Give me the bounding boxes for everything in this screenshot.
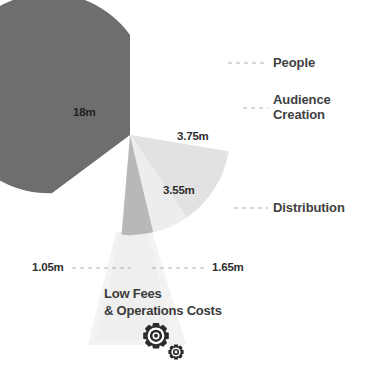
pie-slices: [0, 0, 229, 235]
slice-value-audience-creation: 3.75m: [177, 130, 209, 144]
slice-people[interactable]: [0, 0, 130, 193]
gear-small-icon: [168, 344, 183, 359]
callout-label-audience-creation-line1: Audience: [273, 93, 331, 108]
caption-low-fees-line1: Low Fees: [104, 286, 162, 301]
callout-label-audience-creation[interactable]: Audience Creation: [273, 93, 331, 122]
callout-label-distribution[interactable]: Distribution: [273, 200, 345, 215]
edge-value-ops-left: 1.05m: [32, 261, 64, 275]
edge-value-ops-right: 1.65m: [212, 261, 244, 275]
slice-value-distribution: 3.55m: [163, 184, 195, 198]
callout-label-people[interactable]: People: [273, 55, 315, 70]
pie-chart-figure: 18m 3.75m 3.55m 1.05m 1.65m People Audie…: [0, 0, 365, 373]
caption-low-fees-line2: & Operations Costs: [104, 303, 222, 318]
callout-label-audience-creation-line2: Creation: [273, 108, 331, 123]
slice-value-people: 18m: [73, 106, 95, 120]
gear-icon: [143, 323, 169, 349]
